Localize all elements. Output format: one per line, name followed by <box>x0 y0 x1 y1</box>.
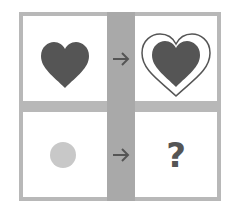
question-mark: ? <box>135 112 217 197</box>
heart-icon <box>23 16 107 101</box>
outlined-heart-icon <box>135 16 217 101</box>
circle-icon <box>23 112 107 197</box>
cell-top-left <box>23 16 107 101</box>
right-arrow-icon <box>111 52 131 66</box>
right-arrow-icon <box>111 148 131 162</box>
center-divider-band <box>107 12 135 201</box>
cell-bottom-left <box>23 112 107 197</box>
cell-top-right <box>135 16 217 101</box>
